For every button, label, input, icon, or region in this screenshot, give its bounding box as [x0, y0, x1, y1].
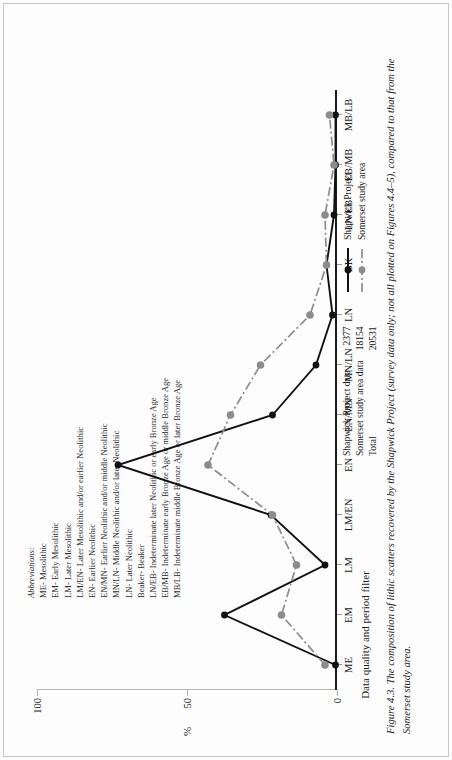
table-row: Total 20531 — [367, 326, 380, 456]
series-line-1 — [208, 115, 334, 665]
series-point-0 — [332, 662, 339, 669]
series-point-0 — [313, 362, 320, 369]
series-point-0 — [115, 462, 122, 469]
data-count-table: Shapwick Project data 2377 Somerset stud… — [341, 326, 380, 456]
table-row: Somerset study area data 18154 — [354, 326, 367, 456]
x-axis-tick-label: ME — [343, 657, 354, 673]
legend-label: Shapwick Project — [342, 173, 355, 240]
x-axis-title: Data quality and period filter — [359, 571, 371, 699]
chart-series-svg — [37, 90, 337, 690]
series-point-1 — [306, 311, 314, 319]
y-axis-tick-label: 50 — [182, 698, 193, 709]
series-point-1 — [326, 111, 334, 119]
rotated-figure-content: Abbreviations: ME- Mesolithic EM- Early … — [11, 12, 441, 748]
series-point-0 — [221, 612, 228, 619]
y-axis-tick-label: 100 — [32, 698, 43, 714]
data-row-label: Somerset study area data — [354, 350, 367, 456]
series-point-1 — [257, 361, 265, 369]
y-axis-tick — [187, 690, 188, 696]
x-axis-tick — [337, 464, 342, 465]
figure-page: Abbreviations: ME- Mesolithic EM- Early … — [0, 0, 452, 760]
series-point-0 — [331, 212, 338, 219]
x-axis-tick — [337, 564, 342, 565]
chart-legend: Shapwick Project Somerset study area — [341, 163, 369, 293]
y-axis-tick-label: 0 — [332, 698, 343, 703]
abbreviations-heading: Abbreviations: — [25, 268, 37, 598]
series-point-1 — [323, 261, 331, 269]
x-axis-tick — [337, 514, 342, 515]
series-line-0 — [118, 115, 336, 665]
legend-entry-somerset: Somerset study area — [355, 163, 369, 293]
data-row-value: 18154 — [354, 326, 367, 350]
y-axis-tick — [337, 690, 338, 696]
x-axis-tick-label: MB/LB — [343, 99, 354, 132]
series-point-1 — [278, 611, 286, 619]
x-axis-tick-label: LM/EN — [343, 499, 354, 532]
series-point-0 — [329, 312, 336, 319]
x-axis-tick — [337, 614, 342, 615]
series-point-0 — [269, 412, 276, 419]
legend-swatch-dashdot-line — [357, 247, 367, 293]
x-axis-tick-label: EM — [343, 607, 354, 623]
data-row-label: Total — [367, 350, 380, 456]
figure-caption: Figure 4.3. The composition of lithic sc… — [383, 44, 415, 734]
series-point-1 — [204, 461, 212, 469]
series-point-0 — [322, 562, 329, 569]
series-point-1 — [269, 511, 277, 519]
y-axis-label: % — [181, 727, 193, 736]
data-row-value: 2377 — [341, 326, 354, 350]
x-axis-tick-label: LN — [343, 308, 354, 322]
chart-plot-area: 050100 % MEEMLMLM/ENENEN/MNMN/LNLNBKLN/E… — [37, 90, 337, 690]
table-row: Shapwick Project data 2377 — [341, 326, 354, 456]
series-point-1 — [227, 411, 235, 419]
series-point-1 — [321, 211, 329, 219]
legend-entry-shapwick: Shapwick Project — [341, 163, 355, 293]
data-row-label: Shapwick Project data — [341, 350, 354, 456]
series-point-1 — [293, 561, 301, 569]
series-point-1 — [321, 661, 329, 669]
x-axis-tick-label: EN — [343, 458, 354, 472]
x-axis-tick-label: LM — [343, 557, 354, 573]
y-axis-tick — [37, 690, 38, 696]
x-axis-tick — [337, 314, 342, 315]
legend-label: Somerset study area — [356, 163, 369, 240]
legend-swatch-solid-line — [343, 247, 353, 293]
series-point-1 — [330, 161, 338, 169]
data-row-value: 20531 — [367, 326, 380, 350]
